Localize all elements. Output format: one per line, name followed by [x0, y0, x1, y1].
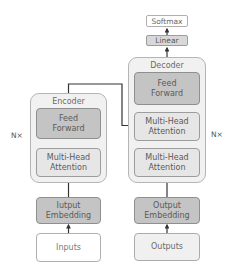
- inputs-block: Inputs: [36, 233, 101, 262]
- output-embedding: Output Embedding: [134, 197, 200, 224]
- decoder-cross-mha-line2: Attention: [149, 127, 186, 137]
- output-embedding-line1: Output: [153, 201, 181, 211]
- encoder-repeat-label: N×: [11, 131, 23, 140]
- output-embedding-line2: Embedding: [144, 211, 189, 221]
- encoder-feed-forward: Feed Forward: [36, 108, 101, 139]
- decoder-self-attention: Multi-Head Attention: [134, 148, 200, 177]
- encoder-ff-line1: Feed: [59, 114, 78, 124]
- encoder-mha-line1: Multi-Head: [47, 153, 90, 163]
- decoder-self-mha-line2: Attention: [149, 163, 186, 173]
- encoder-mha-line2: Attention: [50, 163, 87, 173]
- encoder-ff-line2: Forward: [52, 124, 84, 134]
- decoder-cross-attention: Multi-Head Attention: [134, 112, 200, 141]
- linear-block: Linear: [146, 35, 188, 46]
- decoder-repeat-label: N×: [211, 130, 223, 139]
- decoder-ff-line1: Feed: [157, 79, 176, 89]
- encoder-title: Encoder: [30, 97, 107, 106]
- inputs-label: Inputs: [56, 243, 81, 253]
- outputs-label: Outputs: [151, 242, 183, 252]
- linear-label: Linear: [155, 36, 178, 45]
- input-embedding-line2: Embedding: [46, 211, 91, 221]
- input-embedding: Iutput Embedding: [36, 197, 101, 224]
- encoder-multi-head-attention: Multi-Head Attention: [36, 148, 101, 177]
- decoder-cross-mha-line1: Multi-Head: [145, 117, 188, 127]
- decoder-self-mha-line1: Multi-Head: [145, 153, 188, 163]
- softmax-block: Softmax: [146, 15, 188, 27]
- decoder-feed-forward: Feed Forward: [134, 72, 200, 105]
- decoder-title: Decoder: [128, 61, 206, 70]
- softmax-label: Softmax: [151, 17, 182, 26]
- decoder-ff-line2: Forward: [151, 89, 183, 99]
- outputs-block: Outputs: [134, 233, 200, 261]
- input-embedding-line1: Iutput: [57, 201, 81, 211]
